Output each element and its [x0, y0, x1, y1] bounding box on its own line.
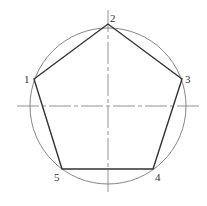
vertex-label-1: 1	[24, 73, 30, 85]
vertex-label-5: 5	[54, 171, 60, 183]
vertex-label-3: 3	[185, 73, 191, 85]
vertex-label-2: 2	[110, 12, 116, 24]
vertex-label-4: 4	[155, 171, 161, 183]
diagram-svg: 1 2 3 4 5	[0, 0, 207, 206]
pentagon-diagram: 1 2 3 4 5	[0, 0, 207, 206]
